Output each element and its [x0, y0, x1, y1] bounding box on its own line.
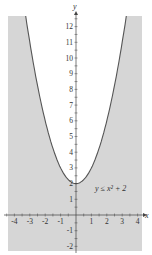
x-tick-label: 2: [105, 217, 109, 226]
y-axis-label: y: [72, 2, 77, 11]
y-tick-label: 6: [69, 116, 73, 125]
y-tick-label: 12: [66, 22, 74, 31]
y-tick-label: 11: [66, 38, 73, 47]
x-tick-label: -1: [57, 217, 63, 226]
y-tick-label: 3: [69, 163, 73, 172]
y-tick-label: 4: [69, 148, 73, 157]
x-tick-label: 4: [136, 217, 140, 226]
shaded-region: [8, 16, 142, 251]
y-tick-label: 10: [66, 54, 74, 63]
y-tick-label: 5: [69, 132, 73, 141]
x-tick-label: -3: [27, 217, 33, 226]
y-tick-label: 8: [69, 85, 73, 94]
x-tick-label: 1: [90, 217, 94, 226]
y-tick-label: 1: [69, 195, 73, 204]
x-axis-label: x: [144, 211, 149, 220]
y-axis-arrow-icon: [74, 11, 78, 15]
x-tick-label: -4: [11, 217, 17, 226]
x-tick-label: 3: [120, 217, 124, 226]
y-tick-label: 2: [69, 179, 73, 188]
y-tick-label: 9: [69, 69, 73, 78]
inequality-graph: -4-3-2-11234-2-1123456789101112 x y y ≤ …: [0, 0, 152, 255]
y-tick-label: -2: [67, 242, 73, 251]
inequality-label: y ≤ x² + 2: [94, 184, 126, 193]
y-tick-label: -1: [67, 226, 73, 235]
x-tick-label: -2: [42, 217, 48, 226]
shaded-area: [8, 16, 142, 251]
y-tick-label: 7: [69, 101, 73, 110]
